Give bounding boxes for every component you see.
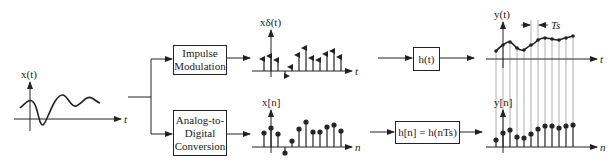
- block-label: h[n] = h(nTs): [398, 126, 457, 139]
- splitter: [128, 59, 172, 134]
- discrete-output-plot: [486, 110, 597, 153]
- output-discrete-axis: n: [600, 141, 606, 153]
- impulse-train-plot: [252, 30, 352, 77]
- discrete-filter-block: h[n] = h(nTs): [395, 121, 460, 144]
- block-label-line: Digital: [175, 127, 226, 140]
- continuous-output-plot: [486, 22, 597, 68]
- discrete-input-label: x[n]: [262, 96, 280, 108]
- block-label: h(t): [419, 53, 435, 66]
- sample-guides: [496, 20, 573, 140]
- discrete-input-axis: n: [355, 141, 361, 153]
- block-label-line: Impulse: [174, 47, 225, 60]
- output-continuous-axis: t: [600, 53, 603, 65]
- continuous-filter-block: h(t): [413, 47, 440, 71]
- input-signal-plot: [14, 82, 121, 131]
- impulse-train-label: xδ(t): [260, 16, 281, 28]
- impulse-modulation-block: Impulse Modulation: [173, 45, 227, 75]
- block-label-line: Analog-to-: [175, 114, 226, 127]
- input-x-label: t: [124, 113, 127, 125]
- adc-block: Analog-to- Digital Conversion: [173, 110, 227, 156]
- discrete-input-plot: [252, 110, 352, 155]
- input-y-label: x(t): [21, 68, 37, 80]
- block-label-line: Conversion: [175, 140, 226, 153]
- impulse-train-axis: t: [355, 65, 358, 77]
- output-discrete-label: y[n]: [494, 96, 512, 108]
- diagram-canvas: [0, 0, 611, 164]
- block-label-line: Modulation: [174, 60, 225, 73]
- output-continuous-label: y(t): [494, 8, 510, 20]
- period-label: Ts: [551, 19, 560, 31]
